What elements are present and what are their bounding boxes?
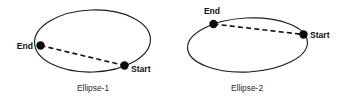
ellipse-2-end-label: End — [204, 6, 220, 16]
diagram-canvas: End Start Ellipse-1 End Start Ellipse-2 — [0, 0, 344, 104]
panel-ellipse-1: End Start Ellipse-1 — [17, 8, 152, 93]
panel-ellipse-2: End Start Ellipse-2 — [186, 6, 330, 93]
ellipse-2-outline — [186, 15, 309, 75]
ellipse-1-end-label: End — [17, 41, 33, 51]
ellipse-diagram-figure: End Start Ellipse-1 End Start Ellipse-2 — [0, 0, 344, 104]
ellipse-2-chord-dashed-line — [214, 24, 304, 35]
ellipse-2-caption: Ellipse-2 — [231, 83, 263, 93]
ellipse-1-caption: Ellipse-1 — [77, 83, 109, 93]
ellipse-1-start-label: Start — [131, 64, 151, 74]
ellipse-2-start-label: Start — [310, 30, 330, 40]
ellipse-1-end-point-dot — [36, 41, 44, 49]
ellipse-1-start-point-dot — [120, 61, 128, 69]
ellipse-1-chord-dashed-line — [41, 46, 125, 66]
ellipse-2-end-point-dot — [209, 20, 217, 28]
ellipse-2-start-point-dot — [299, 30, 307, 38]
